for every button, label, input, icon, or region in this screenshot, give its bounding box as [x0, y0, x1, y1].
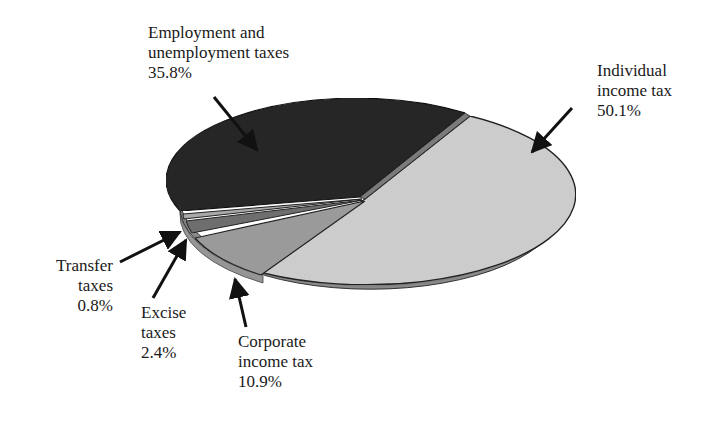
label-corporate-income-tax: Corporate income tax 10.9% [238, 332, 313, 392]
arrow-corporate [235, 279, 246, 327]
label-individual-line2: income tax [597, 81, 672, 101]
label-excise-pct: 2.4% [141, 343, 186, 363]
arrow-excise [153, 240, 186, 298]
label-corporate-line1: Corporate [238, 332, 313, 352]
label-employment-taxes: Employment and unemployment taxes 35.8% [148, 23, 289, 83]
label-transfer-line1: Transfer [28, 256, 113, 276]
label-individual-pct: 50.1% [597, 101, 672, 121]
label-individual-income-tax: Individual income tax 50.1% [597, 61, 672, 121]
label-individual-line1: Individual [597, 61, 672, 81]
label-corporate-pct: 10.9% [238, 372, 313, 392]
label-corporate-line2: income tax [238, 352, 313, 372]
label-excise-line1: Excise [141, 303, 186, 323]
label-transfer-line2: taxes [28, 276, 113, 296]
arrow-individual [532, 108, 572, 152]
label-employment-pct: 35.8% [148, 63, 289, 83]
label-excise-taxes: Excise taxes 2.4% [141, 303, 186, 363]
label-transfer-pct: 0.8% [28, 296, 113, 316]
arrow-transfer [120, 232, 180, 262]
label-transfer-taxes: Transfer taxes 0.8% [28, 256, 113, 316]
label-employment-line1: Employment and [148, 23, 289, 43]
label-employment-line2: unemployment taxes [148, 43, 289, 63]
label-excise-line2: taxes [141, 323, 186, 343]
